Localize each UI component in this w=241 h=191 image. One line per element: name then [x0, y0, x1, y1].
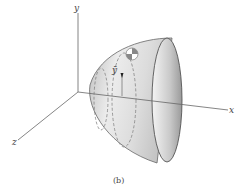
- x-axis-label: x: [229, 105, 234, 115]
- y-axis-label: y: [73, 3, 80, 13]
- z-axis: [18, 92, 78, 140]
- centroid-icon: [126, 48, 138, 60]
- open-end-face: [152, 38, 182, 162]
- paraboloid-diagram: y x z ȳ (b): [0, 0, 241, 191]
- centroid-ybar-label: ȳ: [111, 65, 118, 75]
- figure-caption: (b): [113, 176, 124, 185]
- z-axis-label: z: [11, 137, 17, 147]
